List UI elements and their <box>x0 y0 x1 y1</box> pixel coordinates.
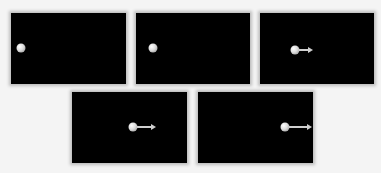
velocity-arrow-icon <box>299 49 309 51</box>
ball-icon <box>149 44 158 53</box>
frame-panel-2 <box>136 13 250 84</box>
frame-panel-5 <box>198 92 313 163</box>
frame-panel-1 <box>11 13 126 84</box>
velocity-arrow-icon <box>289 126 308 128</box>
ball-icon <box>17 44 26 53</box>
frame-panel-3 <box>260 13 374 84</box>
velocity-arrow-icon <box>137 126 152 128</box>
frame-panel-4 <box>72 92 187 163</box>
